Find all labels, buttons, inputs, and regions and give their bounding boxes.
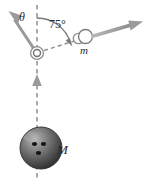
small-mass-velocity-vector [92,21,144,37]
large-mass-ball [20,127,62,169]
angle-75-label: 75° [49,17,66,31]
physics-figure: θ 75° m M [0,0,147,179]
figure-canvas: θ 75° m M [0,0,147,179]
small-mass-body [73,30,92,44]
large-mass-label: M [56,142,69,157]
pivot-ring [31,47,44,60]
theta-angle-label: θ [19,10,25,24]
large-mass-velocity-vector [32,74,42,126]
small-mass-label: m [80,44,88,56]
